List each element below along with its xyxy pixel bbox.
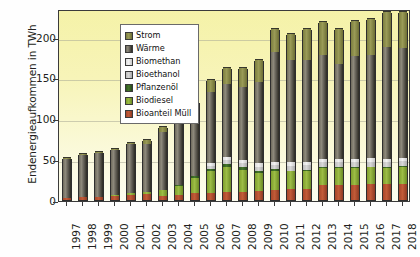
stacked-bar[interactable] (286, 35, 297, 201)
legend-label: Biomethan (136, 57, 181, 65)
plot-area: StromWärmeBiomethanBioethanolPflanzenölB… (58, 10, 410, 202)
bar-segment-w-rme (271, 51, 280, 161)
legend-item[interactable]: Bioanteil Müll (125, 107, 194, 120)
bar-segment-strom (159, 126, 168, 132)
bar-segment-w-rme (159, 131, 168, 190)
x-tick-label: 2017 (390, 190, 402, 250)
bar-segment-biodiesel (303, 170, 312, 189)
bar-column[interactable] (366, 10, 377, 201)
bar-column[interactable] (398, 10, 409, 201)
bar-segment-biodiesel (239, 169, 248, 192)
y-tick-label: 0 (16, 195, 56, 207)
x-tick-mark (226, 202, 227, 206)
legend-swatch-icon (125, 71, 133, 79)
x-tick-mark (258, 202, 259, 206)
bar-column[interactable] (238, 10, 249, 201)
legend-item[interactable]: Biodiesel (125, 94, 194, 107)
bar-segment-w-rme (383, 46, 392, 159)
y-tick-label: 50 (16, 154, 56, 166)
x-tick-mark (82, 202, 83, 206)
x-tick-mark (178, 202, 179, 206)
stacked-bar[interactable] (398, 13, 409, 201)
bar-column[interactable] (206, 10, 217, 201)
legend-item[interactable]: Strom (125, 29, 194, 42)
stacked-bar[interactable] (222, 69, 233, 201)
bar-column[interactable] (94, 10, 105, 201)
x-tick-mark (210, 202, 211, 206)
x-tick-mark (130, 202, 131, 206)
bar-segment-strom (399, 11, 408, 48)
stacked-bar[interactable] (366, 20, 377, 201)
y-tick-label: 100 (16, 113, 56, 125)
legend-label: Bioanteil Müll (136, 109, 191, 117)
x-tick-label: 2016 (374, 190, 386, 250)
legend-swatch-icon (125, 110, 133, 118)
bar-series-group (59, 11, 409, 201)
legend-label: Bioethanol (136, 70, 180, 78)
bar-column[interactable] (110, 10, 121, 201)
x-tick-label: 2012 (310, 190, 322, 250)
y-tick-label: 200 (16, 32, 56, 44)
legend-item[interactable]: Wärme (125, 42, 194, 55)
stacked-bar[interactable] (350, 22, 361, 201)
y-tick-label: 150 (16, 72, 56, 84)
x-tick-label: 2004 (182, 190, 194, 250)
bar-column[interactable] (286, 10, 297, 201)
bar-segment-w-rme (335, 63, 344, 160)
bar-column[interactable] (350, 10, 361, 201)
bar-column[interactable] (78, 10, 89, 201)
bar-segment-w-rme (175, 123, 184, 185)
bar-column[interactable] (222, 10, 233, 201)
stacked-bar[interactable] (382, 13, 393, 201)
bar-column[interactable] (62, 10, 73, 201)
x-tick-label: 2006 (214, 190, 226, 250)
legend-item[interactable]: Pflanzenöl (125, 81, 194, 94)
x-tick-mark (242, 202, 243, 206)
bar-column[interactable] (270, 10, 281, 201)
x-tick-label: 2014 (342, 190, 354, 250)
bar-segment-biodiesel (223, 166, 232, 192)
stacked-bar[interactable] (334, 30, 345, 201)
bar-segment-strom (287, 33, 296, 60)
x-tick-label: 2001 (134, 190, 146, 250)
bar-segment-biodiesel (383, 167, 392, 184)
stacked-bar[interactable] (174, 119, 185, 201)
bar-segment-strom (319, 21, 328, 55)
bar-segment-biodiesel (399, 166, 408, 184)
bar-column[interactable] (382, 10, 393, 201)
x-tick-mark (146, 202, 147, 206)
stacked-bar[interactable] (302, 30, 313, 201)
bar-column[interactable] (334, 10, 345, 201)
legend-item[interactable]: Biomethan (125, 55, 194, 68)
x-tick-mark (306, 202, 307, 206)
x-tick-mark (114, 202, 115, 206)
bar-segment-w-rme (399, 47, 408, 157)
stacked-bar[interactable] (238, 69, 249, 201)
stacked-bar[interactable] (318, 23, 329, 201)
legend-label: Wärme (136, 44, 165, 52)
x-tick-label: 2008 (246, 190, 258, 250)
x-tick-mark (98, 202, 99, 206)
bar-segment-strom (207, 79, 216, 92)
stacked-bar[interactable] (254, 61, 265, 201)
bar-segment-biodiesel (287, 170, 296, 189)
x-tick-mark (386, 202, 387, 206)
bar-segment-strom (143, 139, 152, 143)
legend-item[interactable]: Bioethanol (125, 68, 194, 81)
bar-segment-strom (239, 67, 248, 87)
bar-segment-w-rme (143, 143, 152, 192)
bar-segment-biodiesel (255, 172, 264, 191)
bar-segment-biodiesel (351, 167, 360, 185)
stacked-bar[interactable] (270, 30, 281, 201)
x-tick-label: 1998 (86, 190, 98, 250)
bar-segment-w-rme (207, 91, 216, 163)
bar-column[interactable] (318, 10, 329, 201)
bar-segment-w-rme (367, 54, 376, 159)
x-tick-mark (338, 202, 339, 206)
y-tick-mark (53, 202, 58, 203)
bar-column[interactable] (302, 10, 313, 201)
bar-column[interactable] (254, 10, 265, 201)
stacked-bar[interactable] (206, 81, 217, 201)
bar-segment-w-rme (127, 143, 136, 193)
x-tick-label: 2002 (150, 190, 162, 250)
